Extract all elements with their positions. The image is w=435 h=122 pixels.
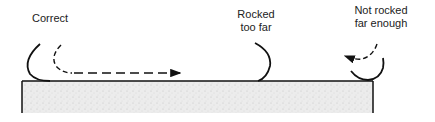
label-not-rocked-line1: Not rocked	[349, 4, 413, 17]
correct-rocker-solid	[28, 44, 50, 81]
label-rocked-too-far-line1: Rocked	[232, 8, 280, 21]
label-rocked-too-far: Rocked too far	[232, 8, 280, 34]
label-not-rocked-far-enough: Not rocked far enough	[349, 4, 413, 30]
label-correct: Correct	[32, 12, 68, 25]
correct-rocker-dashed	[54, 45, 72, 73]
rocked-too-far-rocker	[255, 43, 270, 81]
not-rocked-rocker-solid	[351, 58, 384, 80]
surface-block	[22, 81, 373, 113]
label-rocked-too-far-line2: too far	[232, 21, 280, 34]
not-rocked-arrow	[345, 44, 377, 59]
label-not-rocked-line2: far enough	[349, 17, 413, 30]
